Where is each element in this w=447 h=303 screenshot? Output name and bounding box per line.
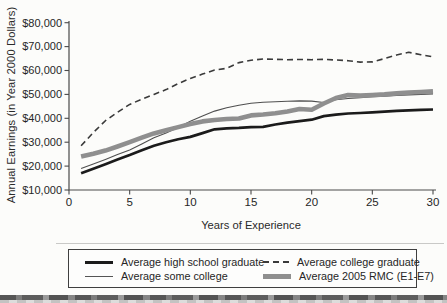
legend-label: Average college graduate [297,256,420,268]
legend-box: Average high school graduateAverage coll… [68,249,417,288]
y-tick-label: $80,000 [22,17,62,29]
y-tick-label: $60,000 [22,64,62,76]
legend-label: Average 2005 RMC (E1-E7) [299,270,434,282]
legend-swatch-thin-solid [85,276,113,277]
x-tick-label: 20 [305,196,318,208]
chart-plot-area: $10,000$20,000$30,000$40,000$50,000$60,0… [0,0,447,240]
series-line-thin-solid [81,94,433,169]
y-tick-label: $20,000 [22,160,62,172]
x-tick-label: 10 [184,196,197,208]
y-tick-label: $70,000 [22,40,62,52]
x-tick-label: 30 [427,196,440,208]
axis-lines [69,21,436,190]
legend-label: Average some college [121,270,228,282]
y-tick-label: $30,000 [22,136,62,148]
legend-swatch-thick-gray [263,274,291,279]
series-line-dashed [81,52,433,146]
scanned-chart-figure: $10,000$20,000$30,000$40,000$50,000$60,0… [0,0,447,303]
x-tick-label: 0 [66,196,72,208]
x-axis-title: Years of Experience [69,219,433,231]
x-tick-label: 5 [126,196,132,208]
horizontal-rule [56,243,444,244]
legend-item: Average college graduate [263,256,434,268]
legend-item: Average some college [85,270,263,282]
y-tick-label: $50,000 [22,88,62,100]
y-tick-label: $10,000 [22,184,62,196]
legend-item: Average 2005 RMC (E1-E7) [263,270,434,282]
x-tick-label: 25 [366,196,379,208]
x-tick-label: 15 [245,196,258,208]
legend-swatch-dashed [263,261,289,263]
legend-item: Average high school graduate [85,256,263,268]
y-axis-title: Annual Earnings (in Year 2000 Dollars) [5,7,17,204]
series-line-thick-gray [81,91,433,156]
y-tick-label: $40,000 [22,112,62,124]
legend-label: Average high school graduate [121,256,264,268]
legend-swatch-thick-solid [85,261,113,264]
